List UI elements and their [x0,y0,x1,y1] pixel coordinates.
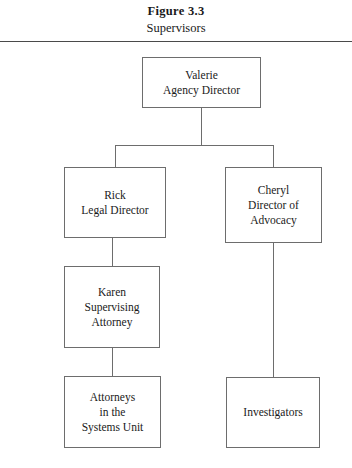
node-director-of-advocacy-line-3: Advocacy [250,213,297,228]
connector-level1-bar [115,145,274,146]
node-director-of-advocacy: Cheryl Director of Advocacy [225,167,322,243]
node-attorneys-systems-unit-line-1: Attorneys [90,390,135,405]
node-agency-director-line-2: Agency Director [163,83,240,98]
connector-director-stem [201,108,202,146]
figure-number: Figure 3.3 [0,4,352,19]
node-supervising-attorney: Karen Supervising Attorney [64,266,160,348]
node-investigators: Investigators [226,377,320,448]
node-attorneys-systems-unit-line-2: in the [100,405,126,420]
node-legal-director: Rick Legal Director [64,167,166,238]
node-investigators-line-1: Investigators [243,405,302,420]
node-agency-director: Valerie Agency Director [142,57,261,108]
connector-to-advocacy [273,145,274,168]
figure-caption: Supervisors [0,21,352,36]
node-legal-director-line-2: Legal Director [81,203,148,218]
node-agency-director-line-1: Valerie [185,68,218,83]
node-attorneys-systems-unit: Attorneys in the Systems Unit [64,376,161,448]
figure-page: Figure 3.3 Supervisors Valerie Agency Di… [0,0,352,468]
connector-advocacy-to-investigators [273,243,274,378]
connector-legal-to-supervising [112,238,113,267]
node-supervising-attorney-line-3: Attorney [92,315,133,330]
node-director-of-advocacy-line-1: Cheryl [258,183,289,198]
node-director-of-advocacy-line-2: Director of [248,198,299,213]
node-supervising-attorney-line-2: Supervising [85,300,140,315]
connector-to-legal [115,145,116,168]
header-divider-rule [0,41,352,42]
connector-supervising-to-attorneys [112,348,113,377]
node-attorneys-systems-unit-line-3: Systems Unit [82,420,144,435]
node-legal-director-line-1: Rick [104,188,126,203]
node-supervising-attorney-line-1: Karen [98,285,126,300]
